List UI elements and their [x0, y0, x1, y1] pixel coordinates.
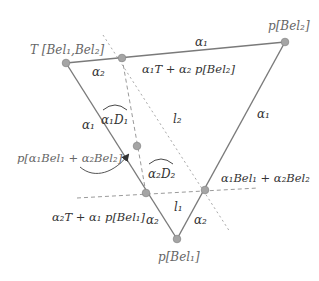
label-vertex-pbel2: p[Bel₂] [268, 19, 310, 33]
simplex-diagram: T [Bel₁,Bel₂] p[Bel₂] p[Bel₁] α₁T + α₂ p… [0, 0, 319, 281]
label-vertex-pbel1: p[Bel₁] [158, 250, 200, 264]
label-d2: α₂D₂ [148, 167, 176, 181]
label-d1: α₁D₁ [101, 113, 128, 127]
label-alpha1-top-right: α₁ [195, 35, 208, 49]
label-alpha2-top-left: α₂ [92, 65, 105, 79]
point-inner [133, 142, 141, 150]
point-top-intersection [118, 54, 126, 62]
label-left-intersection: α₂T + α₁ p[Bel₁] [52, 210, 145, 224]
vertex-pbel1 [173, 235, 181, 243]
hat-d2 [149, 159, 173, 164]
vertex-t [62, 59, 70, 67]
label-l2: l₂ [173, 112, 182, 126]
point-left-intersection [142, 189, 150, 197]
line-l1 [77, 188, 258, 198]
label-alpha1-right: α₁ [257, 107, 270, 121]
label-top-intersection: α₁T + α₂ p[Bel₂] [142, 62, 235, 76]
hat-d1 [103, 105, 127, 110]
label-l1: l₁ [174, 200, 183, 214]
label-right-intersection: α₁Bel₁ + α₂Bel₂ [221, 171, 310, 185]
point-right-intersection [201, 186, 209, 194]
vertex-pbel2 [281, 38, 289, 46]
label-alpha2-left-lower: α₂ [146, 213, 159, 227]
label-alpha1-left: α₁ [82, 118, 95, 132]
label-alpha2-right-lower: α₂ [194, 213, 207, 227]
label-vertex-t: T [Bel₁,Bel₂] [30, 43, 104, 57]
label-inner-point: p[α₁Bel₁ + α₂Bel₂] [17, 151, 123, 165]
